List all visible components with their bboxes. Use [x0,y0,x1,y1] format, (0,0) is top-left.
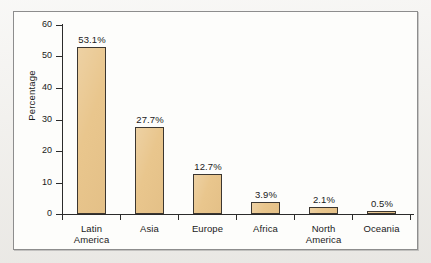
x-tick-0 [62,215,63,220]
bar-oceania[interactable] [367,211,396,214]
x-category-label-latin-america: Latin America [63,223,120,245]
x-tick-2 [178,215,179,220]
y-tick-label-20: 20 [22,146,52,155]
y-tick-label-30: 30 [22,115,52,124]
y-tick-60 [56,25,63,26]
y-tick-label-50: 50 [22,51,52,60]
y-tick-label-0: 0 [22,209,52,218]
page-background: Percentage 60 50 40 30 20 10 0 [0,0,431,263]
y-tick-label-10: 10 [22,178,52,187]
bar-value-asia: 27.7% [132,114,168,125]
x-category-label-asia: Asia [121,223,178,234]
bar-north-america[interactable] [309,207,338,214]
x-category-label-north-america: North America [295,223,352,245]
bar-europe[interactable] [193,174,222,214]
x-axis-line [62,214,414,215]
bar-value-oceania: 0.5% [366,198,398,209]
y-tick-50 [56,56,63,57]
x-tick-6 [410,215,411,220]
chart-frame: Percentage 60 50 40 30 20 10 0 [13,11,418,250]
y-tick-40 [56,88,63,89]
y-tick-label-40: 40 [22,83,52,92]
bar-value-africa: 3.9% [250,189,282,200]
x-tick-3 [236,215,237,220]
y-tick-20 [56,151,63,152]
bar-asia[interactable] [135,127,164,214]
x-tick-4 [294,215,295,220]
x-tick-1 [120,215,121,220]
bar-value-latin-america: 53.1% [74,34,110,45]
x-category-label-europe: Europe [179,223,236,234]
x-tick-5 [352,215,353,220]
x-category-label-oceania: Oceania [353,223,410,234]
bar-value-europe: 12.7% [190,161,226,172]
bar-value-north-america: 2.1% [308,194,340,205]
y-tick-10 [56,183,63,184]
bar-africa[interactable] [251,202,280,214]
x-category-label-africa: Africa [237,223,294,234]
y-tick-30 [56,120,63,121]
y-tick-label-60: 60 [22,20,52,29]
bar-latin-america[interactable] [77,47,106,214]
